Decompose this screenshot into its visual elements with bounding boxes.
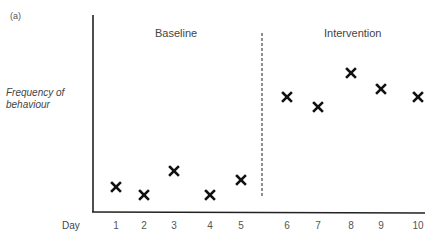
x-tick-label: 4	[207, 220, 213, 231]
x-tick-label: 1	[113, 220, 119, 231]
x-marker-icon	[112, 183, 120, 191]
x-marker-icon	[314, 103, 322, 111]
x-tick-label: 10	[412, 220, 423, 231]
x-tick-label: 8	[348, 220, 354, 231]
x-axis-label: Day	[62, 220, 80, 231]
x-marker-icon	[206, 191, 214, 199]
x-tick-label: 5	[238, 220, 244, 231]
x-marker-icon	[347, 69, 355, 77]
x-marker-icon	[170, 167, 178, 175]
x-tick-label: 2	[141, 220, 147, 231]
x-marker-icon	[414, 93, 422, 101]
x-marker-icon	[283, 93, 291, 101]
data-markers	[112, 69, 422, 199]
x-marker-icon	[237, 176, 245, 184]
x-axis	[92, 212, 425, 213]
plot-area	[0, 0, 438, 245]
x-tick-label: 3	[171, 220, 177, 231]
x-marker-icon	[377, 85, 385, 93]
x-tick-label: 6	[284, 220, 290, 231]
x-marker-icon	[140, 191, 148, 199]
x-tick-label: 7	[315, 220, 321, 231]
x-tick-label: 9	[378, 220, 384, 231]
